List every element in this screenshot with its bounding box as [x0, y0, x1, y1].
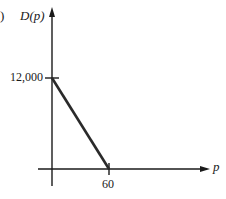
y-tick-label: 12,000	[10, 71, 43, 83]
x-axis-arrow-icon	[200, 166, 210, 172]
demand-line	[52, 78, 109, 169]
demand-chart	[0, 0, 226, 199]
panel-label-fragment: )	[0, 9, 4, 22]
x-axis-label: p	[213, 160, 220, 173]
x-tick-label: 60	[102, 178, 114, 190]
y-axis-label: D(p)	[20, 9, 45, 22]
y-axis-arrow-icon	[49, 7, 55, 17]
